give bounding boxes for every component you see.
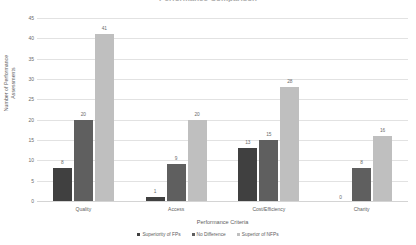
bar-value-label: 9	[175, 156, 178, 161]
bar-slot: 8	[352, 18, 371, 201]
legend-item[interactable]: Superior of NFPs	[237, 232, 279, 237]
x-axis-title: Performance Criteria	[37, 219, 408, 225]
bar-slot: 28	[280, 18, 299, 201]
bar-group-charity: 0816Charity	[315, 18, 408, 201]
bar-groups: 82041Quality1920Access131528Cost/Efficie…	[37, 18, 408, 201]
y-tick-label-0: 0	[31, 198, 34, 204]
bar[interactable]: 41	[95, 34, 114, 201]
legend-label: Superiority of FPs	[142, 232, 180, 237]
y-axis-title-line-2: Assessments	[10, 23, 17, 143]
bar-slot: 41	[95, 18, 114, 201]
bar-group-access: 1920Access	[130, 18, 223, 201]
legend-label: No Difference	[197, 232, 226, 237]
bar[interactable]: 8	[352, 168, 371, 201]
bar-group-cost-efficiency: 131528Cost/Efficiency	[223, 18, 316, 201]
chart-legend: Superiority of FPsNo DifferenceSuperior …	[0, 232, 416, 237]
bar-value-label: 20	[194, 112, 199, 117]
y-tick-label-30: 30	[28, 76, 34, 82]
legend-label: Superior of NFPs	[242, 232, 279, 237]
y-axis-title-line-1: Number of Performance	[3, 23, 10, 143]
bar-slot: 20	[74, 18, 93, 201]
bar-chart: Performance Comparison Number of Perform…	[0, 0, 416, 245]
bar-value-label: 16	[380, 128, 385, 133]
bar-slot: 9	[167, 18, 186, 201]
bar-slot: 0	[331, 18, 350, 201]
gridline-0	[37, 201, 408, 202]
y-tick-label-25: 25	[28, 96, 34, 102]
x-tick-label-quality: Quality	[76, 206, 92, 212]
bar-value-label: 1	[154, 189, 157, 194]
x-tick-label-charity: Charity	[354, 206, 370, 212]
bar-value-label: 15	[266, 132, 271, 137]
y-tick-label-15: 15	[28, 137, 34, 143]
bar-value-label: 41	[102, 26, 107, 31]
bar-value-label: 8	[61, 160, 64, 165]
chart-title: Performance Comparison	[0, 0, 416, 2]
bar-value-label: 28	[287, 79, 292, 84]
y-tick-label-10: 10	[28, 157, 34, 163]
bar-value-label: 8	[360, 160, 363, 165]
bar[interactable]: 20	[188, 120, 207, 201]
bar[interactable]: 1	[146, 197, 165, 201]
legend-item[interactable]: Superiority of FPs	[137, 232, 180, 237]
legend-swatch-icon	[192, 233, 195, 236]
y-tick-label-35: 35	[28, 56, 34, 62]
bar[interactable]: 16	[373, 136, 392, 201]
x-tick-label-access: Access	[168, 206, 184, 212]
y-tick-label-45: 45	[28, 15, 34, 21]
bar-slot: 8	[53, 18, 72, 201]
bar-slot: 16	[373, 18, 392, 201]
y-tick-label-20: 20	[28, 117, 34, 123]
y-axis-title: Number of Performance Assessments	[3, 23, 25, 143]
bar-slot: 15	[259, 18, 278, 201]
legend-swatch-icon	[137, 233, 140, 236]
y-tick-label-40: 40	[28, 35, 34, 41]
bar[interactable]: 28	[280, 87, 299, 201]
bar[interactable]: 8	[53, 168, 72, 201]
bar-slot: 20	[188, 18, 207, 201]
y-tick-label-5: 5	[31, 178, 34, 184]
x-tick-label-cost-efficiency: Cost/Efficiency	[252, 206, 285, 212]
legend-swatch-icon	[237, 233, 240, 236]
bar-group-quality: 82041Quality	[37, 18, 130, 201]
bar[interactable]: 13	[238, 148, 257, 201]
plot-area: 051015202530354045 82041Quality1920Acces…	[37, 18, 408, 201]
bar-slot: 13	[238, 18, 257, 201]
bar-slot: 1	[146, 18, 165, 201]
bar-value-label: 0	[339, 195, 342, 200]
bar-value-label: 20	[81, 112, 86, 117]
legend-item[interactable]: No Difference	[192, 232, 226, 237]
bar-value-label: 13	[245, 140, 250, 145]
bar[interactable]: 20	[74, 120, 93, 201]
bar[interactable]: 9	[167, 164, 186, 201]
bar[interactable]: 15	[259, 140, 278, 201]
